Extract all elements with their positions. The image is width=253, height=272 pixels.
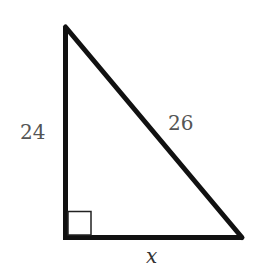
hypotenuse-label: 26 (168, 113, 193, 133)
hypotenuse (66, 27, 243, 238)
right-angle-marker (68, 212, 91, 236)
vertical-leg-label: 24 (20, 122, 45, 142)
horizontal-leg-label: x (146, 246, 157, 266)
